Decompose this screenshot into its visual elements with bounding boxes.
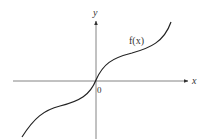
function-curve — [22, 22, 171, 137]
y-axis-label: y — [92, 7, 98, 18]
function-graph: y x 0 f(x) — [0, 0, 208, 139]
x-axis-label: x — [191, 75, 197, 86]
origin-label: 0 — [97, 85, 102, 95]
function-label: f(x) — [129, 35, 144, 47]
